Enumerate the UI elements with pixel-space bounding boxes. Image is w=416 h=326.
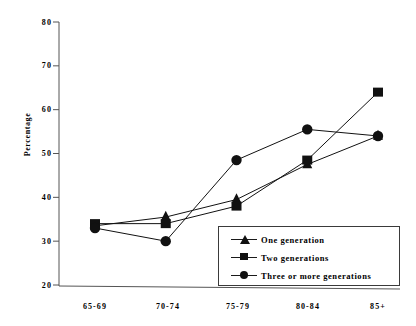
series-markers <box>90 88 383 247</box>
series-line-0 <box>95 136 378 226</box>
series-lines <box>95 92 378 241</box>
legend-label-three-or-more-generations: Three or more generations <box>261 271 371 281</box>
data-point-2-3 <box>302 124 312 134</box>
data-point-2-2 <box>231 155 241 165</box>
line-chart: Percentage 80 70 60 50 40 30 20 65-69 70… <box>0 0 416 326</box>
data-point-2-4 <box>373 131 383 141</box>
data-point-1-3 <box>302 156 312 165</box>
data-point-1-4 <box>373 88 383 97</box>
circle-marker-icon <box>231 270 257 281</box>
data-point-2-0 <box>90 223 100 233</box>
data-point-2-1 <box>161 236 171 246</box>
data-point-1-1 <box>161 219 171 228</box>
legend-label-two-generations: Two generations <box>261 253 329 263</box>
legend: One generation Two generations Three or … <box>218 226 400 286</box>
data-point-1-2 <box>232 202 242 211</box>
triangle-marker-icon <box>231 234 257 245</box>
series-line-2 <box>95 129 378 241</box>
legend-item-two-generations: Two generations <box>231 252 329 263</box>
legend-item-three-or-more-generations: Three or more generations <box>231 270 371 281</box>
legend-label-one-generation: One generation <box>261 235 325 245</box>
square-marker-icon <box>231 252 257 263</box>
legend-item-one-generation: One generation <box>231 234 325 245</box>
